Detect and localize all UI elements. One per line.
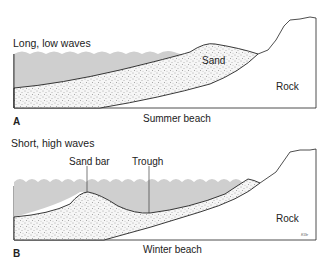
panel-a-summer-beach <box>14 17 316 108</box>
sand-label: Sand <box>202 55 225 66</box>
caption-b: Winter beach <box>143 244 202 255</box>
rock-label-a: Rock <box>276 81 299 92</box>
wave-label-b: Short, high waves <box>11 137 94 149</box>
panel-letter-a: A <box>13 116 20 127</box>
panel-b-winter-beach <box>14 149 316 240</box>
caption-a: Summer beach <box>143 113 211 124</box>
artist-signature: KGr <box>301 232 308 237</box>
panel-letter-b: B <box>13 248 20 259</box>
wave-label-a: Long, low waves <box>13 37 91 49</box>
rock-label-b: Rock <box>276 213 299 224</box>
trough-label: Trough <box>132 156 163 167</box>
sand-bar-label: Sand bar <box>69 156 110 167</box>
